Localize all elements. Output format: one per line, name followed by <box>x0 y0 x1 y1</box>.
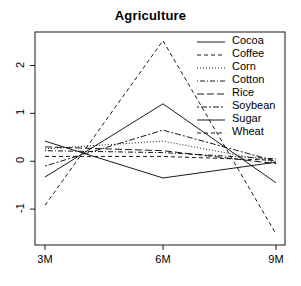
legend-line-key-icon <box>196 99 226 111</box>
legend-label: Coffee <box>232 47 264 59</box>
legend-line-key-icon <box>196 112 226 124</box>
legend-line-key-icon <box>196 73 226 85</box>
legend-label: Soybean <box>232 99 275 111</box>
legend-line-key-icon <box>196 60 226 72</box>
legend-label: Corn <box>232 60 256 72</box>
y-tick-label: 2 <box>14 55 26 75</box>
legend-item-rice: Rice <box>196 85 296 98</box>
y-tick-label: -1 <box>14 198 26 218</box>
legend-label: Sugar <box>232 112 261 124</box>
legend-item-soybean: Soybean <box>196 98 296 111</box>
legend-item-corn: Corn <box>196 59 296 72</box>
legend-label: Rice <box>232 86 254 98</box>
x-tick-label: 6M <box>143 253 183 265</box>
legend-item-sugar: Sugar <box>196 111 296 124</box>
legend-label: Wheat <box>232 125 264 137</box>
legend-item-wheat: Wheat <box>196 124 296 137</box>
legend-item-cocoa: Cocoa <box>196 33 296 46</box>
chart-root: Agriculture 3M6M9M 210-1 CocoaCoffeeCorn… <box>0 0 301 286</box>
legend-label: Cotton <box>232 73 264 85</box>
y-tick-label: 1 <box>14 102 26 122</box>
legend-line-key-icon <box>196 34 226 46</box>
y-tick-label: 0 <box>14 150 26 170</box>
chart-legend: CocoaCoffeeCornCottonRiceSoybeanSugarWhe… <box>196 33 296 137</box>
legend-line-key-icon <box>196 86 226 98</box>
legend-label: Cocoa <box>232 34 264 46</box>
legend-line-key-icon <box>196 47 226 59</box>
x-tick-label: 9M <box>256 253 296 265</box>
legend-item-coffee: Coffee <box>196 46 296 59</box>
x-tick-label: 3M <box>25 253 65 265</box>
legend-line-key-icon <box>196 125 226 137</box>
legend-item-cotton: Cotton <box>196 72 296 85</box>
